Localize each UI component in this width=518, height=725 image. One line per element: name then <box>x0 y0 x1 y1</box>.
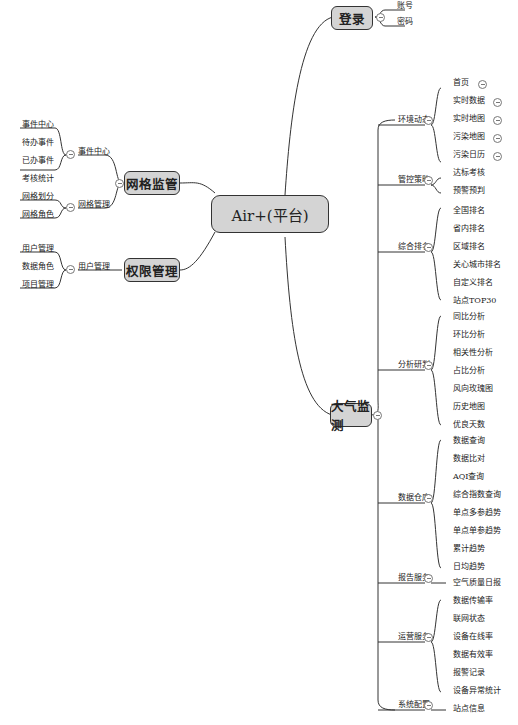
leaf[interactable]: 自定义排名 <box>453 276 493 287</box>
collapse-icon[interactable] <box>424 494 433 503</box>
leaf[interactable]: 考核统计 <box>22 172 54 183</box>
leaf[interactable]: 优良天数 <box>453 418 485 429</box>
expand-icon[interactable] <box>478 80 487 89</box>
leaf[interactable]: 事件中心 <box>22 118 54 129</box>
leaf[interactable]: 设备异常统计 <box>453 684 501 695</box>
leaf[interactable]: 数据查询 <box>453 434 485 445</box>
leaf[interactable]: 联网状态 <box>453 612 485 623</box>
grid-supervision-node[interactable]: 网格监管 <box>124 171 180 195</box>
leaf[interactable]: 省内排名 <box>453 222 485 233</box>
expand-icon[interactable] <box>493 152 502 161</box>
leaf[interactable]: 风向玫瑰图 <box>453 382 493 393</box>
leaf[interactable]: 项目管理 <box>22 278 54 289</box>
collapse-icon[interactable] <box>424 116 433 125</box>
collapse-icon[interactable] <box>66 150 75 159</box>
leaf[interactable]: 达标考核 <box>453 166 485 177</box>
leaf[interactable]: 单点多参趋势 <box>453 506 501 517</box>
leaf[interactable]: 数据角色 <box>22 260 54 271</box>
collapse-grid-icon[interactable] <box>115 179 124 188</box>
leaf[interactable]: 实时地图 <box>453 112 485 123</box>
leaf[interactable]: 数据有效率 <box>453 648 493 659</box>
leaf[interactable]: 占比分析 <box>453 364 485 375</box>
collapse-icon[interactable] <box>424 574 433 583</box>
leaf[interactable]: 日均趋势 <box>453 560 485 571</box>
leaf[interactable]: 区域排名 <box>453 240 485 251</box>
leaf[interactable]: 站点信息 <box>453 702 485 713</box>
collapse-air-monitor-icon[interactable] <box>373 411 382 420</box>
collapse-icon[interactable] <box>424 361 433 370</box>
leaf[interactable]: 数据比对 <box>453 452 485 463</box>
expand-icon[interactable] <box>493 116 502 125</box>
leaf[interactable]: 关心城市排名 <box>453 258 501 269</box>
leaf[interactable]: 空气质量日报 <box>453 576 501 587</box>
leaf[interactable]: 污染日历 <box>453 148 485 159</box>
expand-icon[interactable] <box>493 134 502 143</box>
leaf[interactable]: 累计趋势 <box>453 542 485 553</box>
root-node[interactable]: Air+(平台) <box>211 195 329 233</box>
leaf[interactable]: 单点单参趋势 <box>453 524 501 535</box>
collapse-icon[interactable] <box>424 243 433 252</box>
group-user-manage[interactable]: 用户管理 <box>78 260 110 271</box>
login-child[interactable]: 账号 <box>397 0 413 10</box>
leaf[interactable]: 环比分析 <box>453 328 485 339</box>
group-grid-manage[interactable]: 网格管理 <box>78 198 110 209</box>
leaf[interactable]: 全国排名 <box>453 204 485 215</box>
leaf[interactable]: 历史地图 <box>453 400 485 411</box>
permission-node[interactable]: 权限管理 <box>124 258 180 282</box>
expand-icon[interactable] <box>493 98 502 107</box>
collapse-login-icon[interactable] <box>376 13 385 22</box>
leaf[interactable]: 站点TOP30 <box>453 294 496 305</box>
air-monitor-node[interactable]: 大气监测 <box>330 403 372 427</box>
leaf[interactable]: 首页 <box>453 76 469 87</box>
collapse-icon[interactable] <box>424 633 433 642</box>
leaf[interactable]: 数据传输率 <box>453 594 493 605</box>
leaf[interactable]: 同比分析 <box>453 310 485 321</box>
connector-lines <box>0 0 518 725</box>
leaf[interactable]: 报警记录 <box>453 666 485 677</box>
leaf[interactable]: 污染地图 <box>453 130 485 141</box>
leaf[interactable]: 相关性分析 <box>453 346 493 357</box>
collapse-icon[interactable] <box>66 203 75 212</box>
collapse-icon[interactable] <box>424 176 433 185</box>
leaf[interactable]: 实时数据 <box>453 94 485 105</box>
leaf[interactable]: 网格划分 <box>22 190 54 201</box>
leaf[interactable]: 设备在线率 <box>453 630 493 641</box>
leaf[interactable]: 用户管理 <box>22 242 54 253</box>
collapse-icon[interactable] <box>66 265 75 274</box>
root-label: Air+(平台) <box>231 204 308 225</box>
leaf[interactable]: 已办事件 <box>22 154 54 165</box>
leaf[interactable]: 网格角色 <box>22 208 54 219</box>
login-child[interactable]: 密码 <box>397 15 413 26</box>
leaf[interactable]: AQI查询 <box>453 470 485 481</box>
leaf[interactable]: 待办事件 <box>22 136 54 147</box>
group-event-center[interactable]: 事件中心 <box>78 145 110 156</box>
leaf[interactable]: 预警预判 <box>453 184 485 195</box>
leaf[interactable]: 综合指数查询 <box>453 488 501 499</box>
login-node[interactable]: 登录 <box>331 6 373 30</box>
collapse-icon[interactable] <box>424 701 433 710</box>
